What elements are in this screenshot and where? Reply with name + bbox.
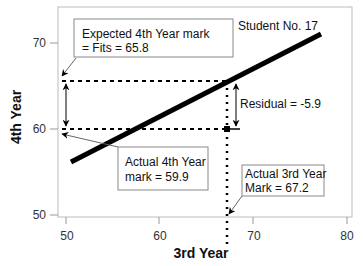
x-tick-70: 70	[247, 229, 261, 243]
residual-chart: 70 60 50 50 60 70 80 3rd Year 4th Year S…	[0, 0, 363, 266]
x-tick-50: 50	[60, 229, 74, 243]
y-axis	[50, 43, 58, 215]
expected-pointer	[62, 58, 76, 76]
actual-4th-line1: Actual 4th Year	[125, 155, 206, 169]
x-axis-title: 3rd Year	[173, 245, 229, 261]
actual-3rd-pointer	[229, 196, 242, 214]
y-tick-60: 60	[33, 122, 47, 136]
actual-4th-line2: mark = 59.9	[125, 170, 189, 184]
y-tick-50: 50	[33, 208, 47, 222]
expected-line1: Expected 4th Year mark	[82, 27, 210, 41]
x-tick-60: 60	[153, 229, 167, 243]
student-label: Student No. 17	[238, 19, 318, 33]
actual-3rd-line2: Mark = 67.2	[245, 181, 309, 195]
student-17-point	[224, 126, 230, 132]
y-tick-70: 70	[33, 36, 47, 50]
x-tick-80: 80	[340, 229, 354, 243]
x-axis	[66, 217, 347, 224]
actual-3rd-line1: Actual 3rd Year	[245, 167, 326, 181]
residual-label: Residual = -5.9	[240, 97, 321, 111]
expected-line2: = Fits = 65.8	[82, 41, 149, 55]
y-axis-title: 4th Year	[8, 89, 24, 144]
